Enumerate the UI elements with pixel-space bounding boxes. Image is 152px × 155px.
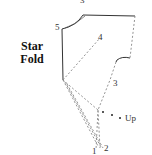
label-2: 2 (104, 143, 109, 153)
top-cropped-label: 3 (80, 0, 85, 5)
label-4: 4 (98, 32, 103, 42)
fold-line-1a (63, 80, 98, 146)
fold-line-4 (63, 38, 100, 80)
fold-line-2 (67, 84, 103, 148)
label-3: 3 (113, 78, 118, 88)
top-curve-inner-edge (65, 16, 85, 28)
fold-diagram: 3 5 4 3 Up 1 2 (0, 0, 152, 155)
fold-line-3 (98, 62, 116, 148)
label-1: 1 (92, 146, 97, 155)
label-up: Up (125, 113, 136, 123)
fold-line-up (63, 80, 98, 110)
right-dashed-edge (130, 16, 135, 58)
label-5: 5 (55, 22, 60, 32)
fold-line-1b (65, 82, 101, 147)
notch-solid-edge (116, 57, 130, 62)
up-dotted-arrow (102, 111, 121, 119)
